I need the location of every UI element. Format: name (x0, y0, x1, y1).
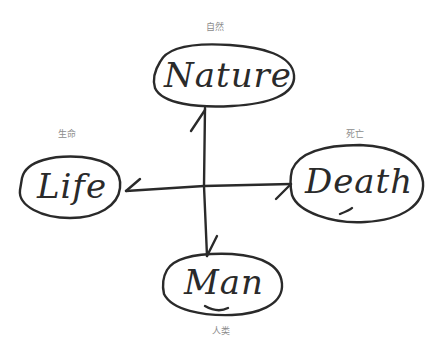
arrow-left-to-life (126, 186, 204, 191)
nature-label: 自然 (195, 20, 235, 33)
life-label: 生命 (47, 127, 87, 140)
man-label: 人类 (201, 324, 241, 337)
man-word: Man (165, 262, 283, 302)
arrow-head-death (276, 184, 291, 199)
arrow-right-to-death (204, 184, 291, 186)
arrow-down-to-man (204, 186, 207, 256)
death-label: 死亡 (335, 127, 375, 140)
nature-word: Nature (158, 55, 298, 95)
life-word: Life (22, 166, 122, 206)
arrow-head-nature (191, 110, 205, 131)
arrow-up-to-nature (204, 108, 205, 186)
death-word: Death (295, 161, 423, 201)
